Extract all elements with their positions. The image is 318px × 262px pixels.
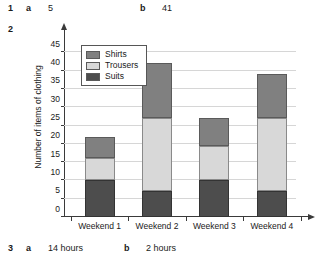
legend-item-trousers: Trousers: [86, 60, 138, 71]
y-axis-title: Number of items of clothing: [33, 53, 43, 181]
y-tick-label: 40: [51, 58, 60, 67]
y-tick-mark: [61, 106, 64, 107]
bar-segment-trousers: [257, 118, 287, 191]
x-tick-label: Weekend 1: [78, 221, 121, 231]
question-part-value: 2 hours: [146, 243, 176, 253]
bar-segment-trousers: [199, 146, 229, 181]
y-tick-label: 15: [51, 149, 60, 158]
answer-line-3: 3a14 hoursb2 hours: [8, 243, 176, 253]
stacked-bar-chart: Number of items of clothing 051015202530…: [18, 40, 310, 238]
y-tick-label: 25: [51, 113, 60, 122]
x-tick-mark: [243, 217, 244, 221]
question-part-value: 14 hours: [48, 243, 124, 253]
bar-segment-trousers: [85, 158, 115, 180]
bar-segment-trousers: [142, 118, 172, 191]
y-tick-mark: [61, 179, 64, 180]
x-tick-label: Weekend 2: [136, 221, 179, 231]
y-tick-mark: [61, 161, 64, 162]
bar-segment-suits: [142, 191, 172, 217]
legend-swatch-suits: [86, 73, 100, 81]
x-axis-arrow: [308, 214, 315, 220]
y-tick-mark: [61, 51, 64, 52]
y-tick-label: 10: [51, 168, 60, 177]
y-tick-mark: [61, 88, 64, 89]
question-part-label: b: [140, 3, 162, 13]
question-part-value: 41: [162, 3, 172, 13]
y-tick-mark: [61, 216, 64, 217]
x-tick-mark: [301, 217, 302, 221]
y-tick-mark: [61, 70, 64, 71]
bar-segment-suits: [257, 191, 287, 217]
legend-label: Trousers: [105, 61, 138, 70]
question-part-label: a: [26, 3, 48, 13]
x-tick-mark: [186, 217, 187, 221]
bar-segment-suits: [199, 180, 229, 217]
legend-label: Suits: [105, 72, 124, 81]
chart-legend: ShirtsTrousersSuits: [81, 45, 147, 86]
question-part-label: b: [124, 243, 146, 253]
legend-label: Shirts: [105, 50, 127, 59]
bar-segment-shirts: [257, 74, 287, 118]
x-tick-label: Weekend 3: [193, 221, 236, 231]
question-number: 2: [8, 24, 13, 34]
y-tick-mark: [61, 198, 64, 199]
question-part-value: 5: [48, 3, 140, 13]
y-tick-label: 35: [51, 76, 60, 85]
legend-item-shirts: Shirts: [86, 49, 138, 60]
legend-swatch-shirts: [86, 51, 100, 59]
y-tick-label: 30: [51, 94, 60, 103]
x-tick-label: Weekend 4: [250, 221, 293, 231]
y-tick-mark: [61, 143, 64, 144]
bar-segment-suits: [85, 180, 115, 217]
legend-item-suits: Suits: [86, 71, 138, 82]
y-tick-label: 45: [51, 40, 60, 49]
bar-segment-shirts: [199, 118, 229, 145]
answer-line-1: 1a5b41: [8, 3, 172, 13]
question-number: 1: [8, 3, 26, 13]
y-axis-arrow: [61, 23, 67, 30]
answer-line-2: 2: [8, 24, 13, 34]
x-tick-mark: [128, 217, 129, 221]
y-tick-label: 0: [55, 204, 60, 213]
question-number: 3: [8, 243, 26, 253]
x-tick-mark: [71, 217, 72, 221]
y-tick-mark: [61, 125, 64, 126]
legend-swatch-trousers: [86, 62, 100, 70]
bar-segment-shirts: [85, 137, 115, 159]
y-tick-label: 20: [51, 131, 60, 140]
y-axis-line: [64, 29, 65, 217]
question-part-label: a: [26, 243, 48, 253]
y-tick-label: 5: [55, 186, 60, 195]
